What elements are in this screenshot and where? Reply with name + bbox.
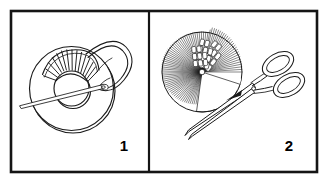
cut-end <box>197 53 202 60</box>
cut-end <box>192 53 197 60</box>
cut-end <box>193 60 198 67</box>
panel-1-number: 1 <box>120 137 128 154</box>
needle-eye <box>102 86 106 89</box>
pompom-instruction-figure: 1 <box>0 0 327 185</box>
cut-end <box>202 52 207 59</box>
panel-2-number: 2 <box>285 137 293 154</box>
cut-end <box>197 46 202 53</box>
cut-end <box>198 60 203 67</box>
scissors-pivot-screw <box>252 87 256 91</box>
cut-end <box>203 59 208 66</box>
illustration-root: 1 <box>0 0 327 185</box>
pompom-centre-core <box>199 69 205 75</box>
cut-end <box>192 46 197 53</box>
donut-inner-hole <box>54 71 89 106</box>
